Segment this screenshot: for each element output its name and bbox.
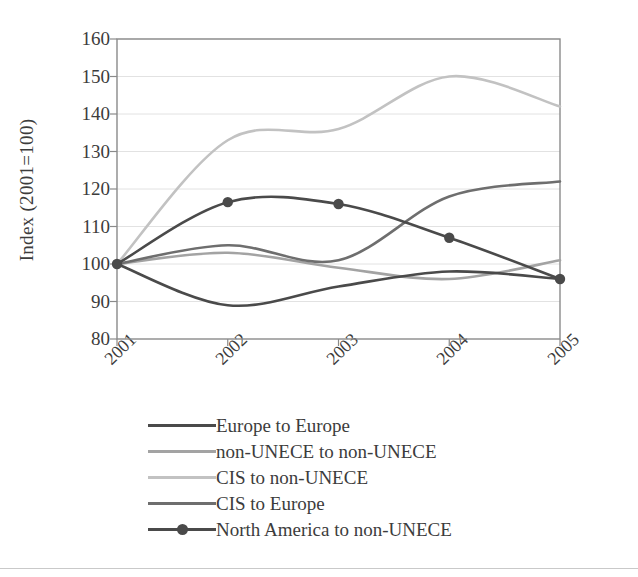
legend-swatch	[148, 438, 216, 464]
legend-line-icon	[148, 450, 216, 453]
series-marker	[112, 259, 122, 269]
legend-swatch	[148, 412, 216, 438]
legend-item[interactable]: North America to non-UNECE	[148, 516, 568, 542]
legend-item[interactable]: CIS to non-UNECE	[148, 464, 568, 490]
legend-label: non-UNECE to non-UNECE	[216, 442, 437, 461]
series-marker	[444, 233, 454, 243]
series-2	[117, 76, 560, 264]
series-line	[117, 253, 560, 279]
legend-swatch	[148, 490, 216, 516]
legend-item[interactable]: non-UNECE to non-UNECE	[148, 438, 568, 464]
series-4	[112, 197, 565, 284]
legend-label: Europe to Europe	[216, 416, 350, 435]
series-marker	[223, 197, 233, 207]
legend-line-icon	[148, 476, 216, 479]
legend-line-icon	[148, 424, 216, 427]
series-1	[117, 253, 560, 279]
legend-item[interactable]: Europe to Europe	[148, 412, 568, 438]
bottom-divider	[0, 568, 638, 569]
series-line	[117, 264, 560, 306]
legend-swatch	[148, 516, 216, 542]
legend-label: CIS to non-UNECE	[216, 468, 368, 487]
legend-label: North America to non-UNECE	[216, 520, 452, 539]
series-marker	[555, 274, 565, 284]
chart-figure: Index (2001=100) 80901001101201301401501…	[0, 0, 638, 577]
chart-legend: Europe to Europenon-UNECE to non-UNECECI…	[148, 412, 568, 542]
legend-item[interactable]: CIS to Europe	[148, 490, 568, 516]
series-0	[117, 264, 560, 306]
legend-label: CIS to Europe	[216, 494, 325, 513]
series-line	[117, 76, 560, 264]
legend-swatch	[148, 464, 216, 490]
series-marker	[333, 199, 343, 209]
legend-line-icon	[148, 502, 216, 505]
legend-marker-icon	[177, 524, 188, 535]
